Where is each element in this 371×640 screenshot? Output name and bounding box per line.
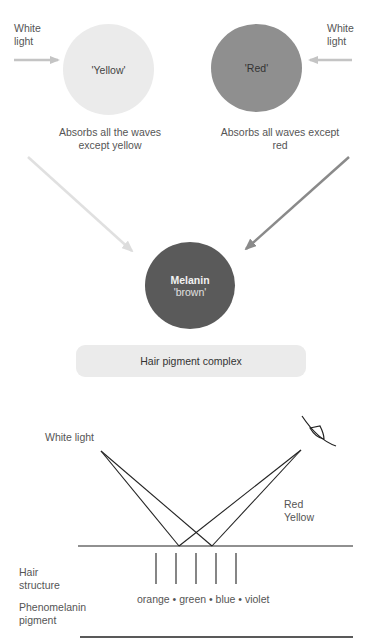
hair-pigment-complex-label: Hair pigment complex	[140, 355, 242, 367]
reflected-yellow: Yellow	[284, 511, 314, 524]
light-rays	[101, 450, 301, 546]
label-line: Phenomelanin	[19, 601, 86, 614]
hair-pigment-complex-box: Hair pigment complex	[76, 345, 306, 377]
label-line: White	[14, 22, 41, 35]
red-caption: Absorbs all waves except red	[200, 126, 360, 152]
phenomelanin-pigment-label: Phenomelanin pigment	[19, 601, 86, 627]
reflected-red: Red	[284, 498, 314, 511]
left-white-light-label: White light	[14, 22, 41, 48]
yellow-pigment-circle: 'Yellow'	[63, 24, 154, 115]
label-line: Hair	[19, 566, 60, 579]
absorbed-colors-label: orange • green • blue • violet	[137, 593, 269, 606]
label-line: light	[327, 35, 354, 48]
yellow-caption: Absorbs all the waves except yellow	[30, 126, 190, 152]
hair-structure-label: Hair structure	[19, 566, 60, 592]
right-white-light-label: White light	[327, 22, 354, 48]
label-line: White	[327, 22, 354, 35]
yellow-to-melanin-arrow	[28, 157, 132, 251]
pigment-ticks	[156, 553, 236, 584]
eye-icon	[302, 416, 336, 446]
red-circle-label: 'Red'	[245, 62, 268, 74]
label-line: structure	[19, 579, 60, 592]
reflected-colors-label: Red Yellow	[284, 498, 314, 524]
white-light-label: White light	[45, 431, 94, 444]
red-pigment-circle: 'Red'	[211, 24, 302, 112]
caption-line: Absorbs all the waves	[30, 126, 190, 139]
caption-line: red	[200, 139, 360, 152]
label-line: pigment	[19, 614, 86, 627]
melanin-title: Melanin	[170, 274, 209, 286]
yellow-circle-label: 'Yellow'	[92, 64, 126, 76]
melanin-circle: Melanin 'brown'	[145, 242, 235, 329]
red-to-melanin-arrow	[246, 157, 349, 249]
melanin-subtitle: 'brown'	[174, 286, 207, 298]
label-line: light	[14, 35, 41, 48]
caption-line: except yellow	[30, 139, 190, 152]
caption-line: Absorbs all waves except	[200, 126, 360, 139]
